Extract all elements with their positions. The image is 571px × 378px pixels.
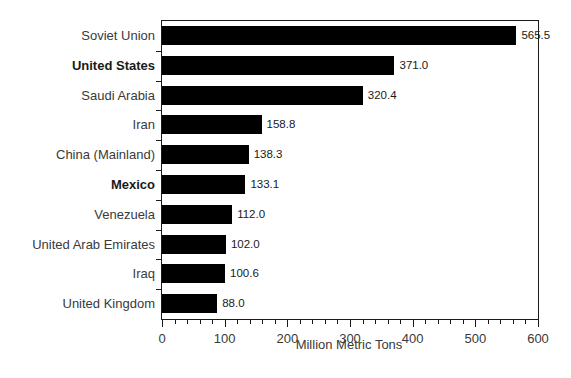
category-label: United Kingdom <box>63 294 163 313</box>
x-axis-minor-tick <box>300 319 301 324</box>
bar <box>162 115 262 134</box>
bar-value-label: 565.5 <box>516 26 550 45</box>
y-axis-tick <box>156 200 162 201</box>
category-label: Soviet Union <box>81 26 162 45</box>
category-label-holder: Iran <box>1 110 162 140</box>
bar-value-label: 88.0 <box>217 294 244 313</box>
category-label-holder: United Kingdom <box>1 289 162 319</box>
y-axis-tick <box>156 259 162 260</box>
category-label-holder: Soviet Union <box>1 21 162 51</box>
y-axis-tick <box>156 110 162 111</box>
x-axis-minor-tick <box>262 319 263 324</box>
x-axis-title: Million Metric Tons <box>161 337 537 352</box>
y-axis-tick <box>156 170 162 171</box>
x-axis-minor-tick <box>363 319 364 324</box>
bar-row: 102.0United Arab Emirates <box>162 230 538 260</box>
x-axis-minor-tick <box>237 319 238 324</box>
bar-row: 133.1Mexico <box>162 170 538 200</box>
bar-row: 112.0Venezuela <box>162 200 538 230</box>
y-axis-tick <box>156 140 162 141</box>
bar <box>162 175 245 194</box>
x-axis-minor-tick <box>525 319 526 324</box>
y-axis-tick <box>156 81 162 82</box>
category-label: United States <box>72 56 162 75</box>
x-axis-minor-tick <box>488 319 489 324</box>
x-axis-minor-tick <box>275 319 276 324</box>
category-label-holder: United Arab Emirates <box>1 230 162 260</box>
x-axis-minor-tick <box>200 319 201 324</box>
x-axis-minor-tick <box>175 319 176 324</box>
bar-row: 565.5Soviet Union <box>162 21 538 51</box>
bar-row: 88.0United Kingdom <box>162 289 538 319</box>
x-axis-minor-tick <box>212 319 213 324</box>
category-label: Saudi Arabia <box>81 86 162 105</box>
category-label-holder: Iraq <box>1 259 162 289</box>
x-axis-minor-tick <box>425 319 426 324</box>
x-axis-minor-tick <box>463 319 464 324</box>
category-label: Venezuela <box>94 205 162 224</box>
y-axis-tick <box>156 51 162 52</box>
bar <box>162 205 232 224</box>
y-axis-tick <box>156 289 162 290</box>
category-label-holder: Saudi Arabia <box>1 81 162 111</box>
bar-row: 138.3China (Mainland) <box>162 140 538 170</box>
y-axis-tick <box>156 230 162 231</box>
category-label: China (Mainland) <box>56 145 162 164</box>
bar-row: 100.6Iraq <box>162 259 538 289</box>
bar-row: 320.4Saudi Arabia <box>162 81 538 111</box>
bar-value-label: 100.6 <box>225 264 259 283</box>
x-axis-major-tick <box>287 319 288 327</box>
bar <box>162 86 363 105</box>
bar <box>162 26 516 45</box>
x-axis-minor-tick <box>388 319 389 324</box>
x-axis-minor-tick <box>400 319 401 324</box>
category-label: Iran <box>133 115 162 134</box>
category-label: Iraq <box>133 264 162 283</box>
x-axis-minor-tick <box>337 319 338 324</box>
bar <box>162 145 249 164</box>
x-axis-major-tick <box>225 319 226 327</box>
bar-value-label: 102.0 <box>226 235 260 254</box>
category-label: Mexico <box>111 175 162 194</box>
x-axis-minor-tick <box>325 319 326 324</box>
x-axis-major-tick <box>538 319 539 327</box>
x-axis-minor-tick <box>513 319 514 324</box>
x-axis-major-tick <box>350 319 351 327</box>
x-axis-minor-tick <box>312 319 313 324</box>
x-axis-minor-tick <box>450 319 451 324</box>
x-axis-major-tick <box>475 319 476 327</box>
plot-area: 565.5Soviet Union371.0United States320.4… <box>161 20 539 320</box>
x-axis-major-tick <box>413 319 414 327</box>
bar-row: 371.0United States <box>162 51 538 81</box>
bar <box>162 56 394 75</box>
category-label-holder: Venezuela <box>1 200 162 230</box>
bar <box>162 235 226 254</box>
x-axis-minor-tick <box>375 319 376 324</box>
bar <box>162 294 217 313</box>
bar-row: 158.8Iran <box>162 110 538 140</box>
bar-value-label: 138.3 <box>249 145 283 164</box>
x-axis-minor-tick <box>500 319 501 324</box>
x-axis-minor-tick <box>250 319 251 324</box>
x-axis-minor-tick <box>187 319 188 324</box>
bar-value-label: 112.0 <box>232 205 265 224</box>
category-label: United Arab Emirates <box>32 235 162 254</box>
bar-chart: 565.5Soviet Union371.0United States320.4… <box>0 0 571 378</box>
category-label-holder: Mexico <box>1 170 162 200</box>
bar-value-label: 320.4 <box>363 86 397 105</box>
bar-value-label: 133.1 <box>245 175 279 194</box>
bar-value-label: 371.0 <box>394 56 428 75</box>
x-axis-major-tick <box>162 319 163 327</box>
x-axis-minor-tick <box>438 319 439 324</box>
bar <box>162 264 225 283</box>
category-label-holder: China (Mainland) <box>1 140 162 170</box>
bar-value-label: 158.8 <box>262 115 296 134</box>
category-label-holder: United States <box>1 51 162 81</box>
